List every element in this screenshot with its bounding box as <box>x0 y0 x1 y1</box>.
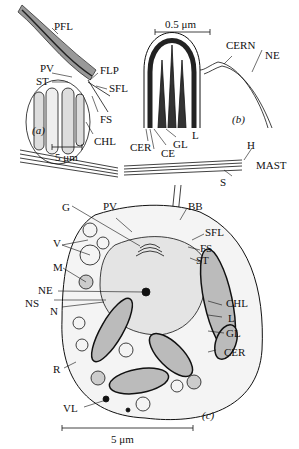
label-ns: NS <box>25 298 39 309</box>
label-sfl-c: SFL <box>205 227 224 238</box>
label-l-c: L <box>228 313 235 324</box>
label-st-c: ST <box>196 255 209 266</box>
label-ne-c: NE <box>38 285 53 296</box>
label-h: H <box>247 140 255 151</box>
panel-a-scale-label: 5 μm <box>55 152 78 163</box>
label-vl: VL <box>63 403 78 414</box>
label-v: V <box>53 238 61 249</box>
label-flp: FLP <box>100 65 119 76</box>
label-fs-c: FS <box>200 243 212 254</box>
label-n: N <box>50 306 58 317</box>
label-cer-c: CER <box>224 347 245 358</box>
label-st-a: ST <box>36 76 49 87</box>
label-sfl-a: SFL <box>109 83 128 94</box>
label-m: M <box>53 262 63 273</box>
label-gl-c: GL <box>226 328 241 339</box>
panel-c-tag: (c) <box>202 410 214 421</box>
label-chl-a: CHL <box>94 136 116 147</box>
cell-diagram-figure: PFL PV ST FLP SFL FS CHL (a) 5 μm 0.5 μm… <box>0 0 299 449</box>
label-chl-c: CHL <box>226 298 248 309</box>
panel-b-tag: (b) <box>232 114 245 125</box>
label-cern: CERN <box>226 40 255 51</box>
panel-a-flagellum <box>18 5 96 80</box>
label-l-b: L <box>192 130 199 141</box>
panel-c-scale-label: 5 μm <box>111 434 134 445</box>
label-cer-b: CER <box>130 142 151 153</box>
label-bb: BB <box>188 201 203 212</box>
label-pfl: PFL <box>54 21 73 32</box>
label-r: R <box>53 364 60 375</box>
panel-b-scale-label: 0.5 μm <box>165 19 196 30</box>
label-ne-b: NE <box>265 50 280 61</box>
label-pv-c: PV <box>103 201 117 212</box>
panel-a-tag: (a) <box>32 125 45 136</box>
label-fs-a: FS <box>100 114 112 125</box>
label-pv-a: PV <box>40 63 54 74</box>
label-s: S <box>220 177 226 188</box>
label-mast: MAST <box>256 160 287 171</box>
label-g: G <box>62 202 70 213</box>
label-gl-b: GL <box>173 139 188 150</box>
